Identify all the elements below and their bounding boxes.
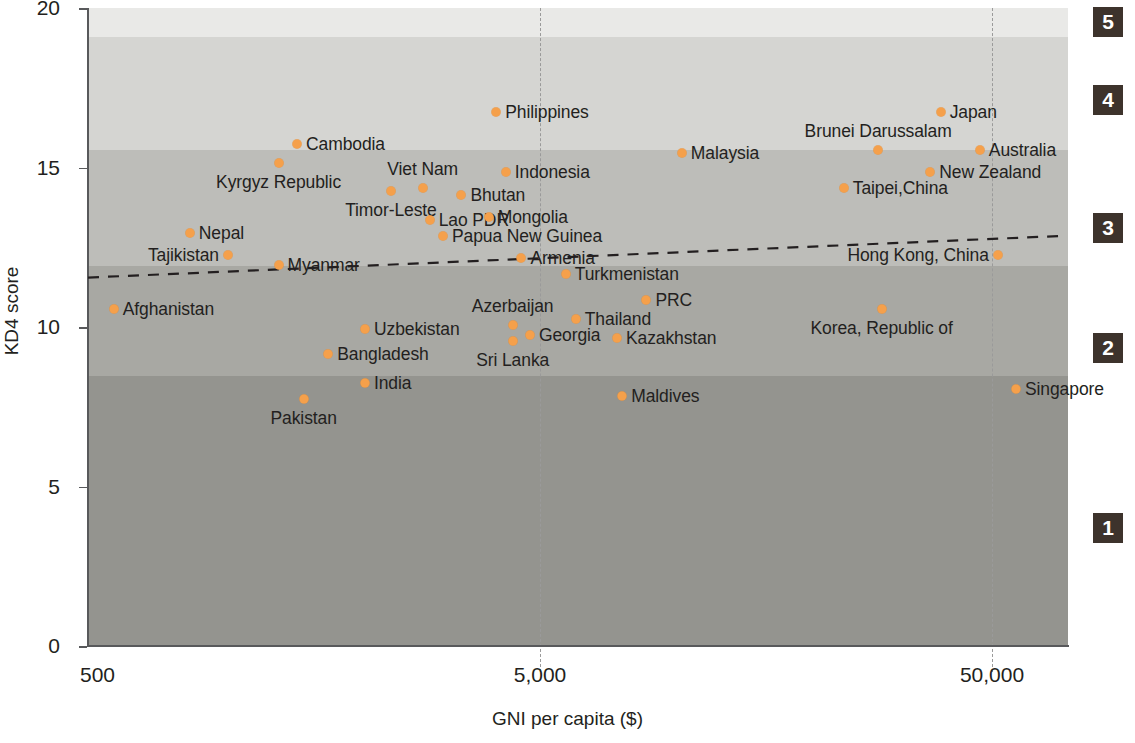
point-label-timor-leste: Timor-Leste xyxy=(345,200,437,221)
point-bhutan[interactable] xyxy=(457,190,466,199)
point-sri-lanka[interactable] xyxy=(508,337,517,346)
point-label-papua-new-guinea: Papua New Guinea xyxy=(452,226,602,247)
y-axis-title: KD4 score xyxy=(1,231,23,391)
point-philippines[interactable] xyxy=(492,107,501,116)
y-tick-5 xyxy=(79,487,87,489)
level-chip-1: 1 xyxy=(1093,513,1123,543)
point-label-azerbaijan: Azerbaijan xyxy=(472,296,554,317)
kd4-band-level-1 xyxy=(88,376,1068,646)
point-papua-new-guinea[interactable] xyxy=(438,232,447,241)
point-taipei-china[interactable] xyxy=(839,184,848,193)
point-timor-leste[interactable] xyxy=(386,187,395,196)
point-korea-republic-of[interactable] xyxy=(877,305,886,314)
point-kazakhstan[interactable] xyxy=(612,334,621,343)
point-label-bhutan: Bhutan xyxy=(470,184,525,205)
point-uzbekistan[interactable] xyxy=(360,324,369,333)
point-label-maldives: Maldives xyxy=(631,385,699,406)
point-label-india: India xyxy=(374,372,411,393)
point-thailand[interactable] xyxy=(571,315,580,324)
x-tick-label-5000: 5,000 xyxy=(514,663,567,687)
point-singapore[interactable] xyxy=(1011,385,1020,394)
point-label-australia: Australia xyxy=(989,139,1056,160)
point-azerbaijan[interactable] xyxy=(508,321,517,330)
point-label-korea-republic-of: Korea, Republic of xyxy=(811,318,953,339)
point-georgia[interactable] xyxy=(525,330,534,339)
point-malaysia[interactable] xyxy=(677,149,686,158)
point-label-viet-nam: Viet Nam xyxy=(387,159,458,180)
level-chip-4: 4 xyxy=(1093,85,1123,115)
point-label-hong-kong-china: Hong Kong, China xyxy=(0,245,989,266)
y-tick-label-5: 5 xyxy=(48,475,60,499)
point-bangladesh[interactable] xyxy=(324,350,333,359)
point-label-afghanistan: Afghanistan xyxy=(123,299,214,320)
point-label-taipei-china: Taipei,China xyxy=(853,178,948,199)
x-axis-line xyxy=(87,645,1069,647)
y-tick-15 xyxy=(79,168,87,170)
point-label-malaysia: Malaysia xyxy=(691,143,759,164)
x-tick-label-50000: 50,000 xyxy=(960,663,1024,687)
kd4-band-level-5 xyxy=(88,8,1068,37)
point-australia[interactable] xyxy=(975,145,984,154)
point-label-japan: Japan xyxy=(950,101,997,122)
point-label-philippines: Philippines xyxy=(505,101,589,122)
point-label-kyrgyz-republic: Kyrgyz Republic xyxy=(216,171,341,192)
level-chip-5: 5 xyxy=(1093,7,1123,37)
point-turkmenistan[interactable] xyxy=(561,270,570,279)
y-tick-10 xyxy=(79,327,87,329)
point-afghanistan[interactable] xyxy=(109,305,118,314)
point-brunei-darussalam[interactable] xyxy=(874,145,883,154)
y-tick-label-0: 0 xyxy=(48,634,60,658)
point-viet-nam[interactable] xyxy=(418,184,427,193)
point-label-turkmenistan: Turkmenistan xyxy=(575,264,679,285)
point-nepal[interactable] xyxy=(185,228,194,237)
y-tick-label-20: 20 xyxy=(37,0,60,20)
point-new-zealand[interactable] xyxy=(926,168,935,177)
chart-container: 05101520 5005,00050,000 AfghanistanTajik… xyxy=(0,0,1135,743)
x-tick-label-500: 500 xyxy=(80,663,115,687)
point-label-new-zealand: New Zealand xyxy=(939,162,1041,183)
y-tick-20 xyxy=(79,8,87,10)
point-hong-kong-china[interactable] xyxy=(993,251,1002,260)
point-maldives[interactable] xyxy=(618,391,627,400)
point-label-mongolia: Mongolia xyxy=(498,206,568,227)
point-kyrgyz-republic[interactable] xyxy=(274,158,283,167)
point-label-kazakhstan: Kazakhstan xyxy=(626,328,716,349)
level-chip-2: 2 xyxy=(1093,333,1123,363)
level-chip-3: 3 xyxy=(1093,213,1123,243)
point-label-prc: PRC xyxy=(655,289,692,310)
point-label-cambodia: Cambodia xyxy=(306,133,385,154)
point-label-singapore: Singapore xyxy=(1025,379,1104,400)
point-lao-pdr[interactable] xyxy=(425,216,434,225)
point-india[interactable] xyxy=(360,378,369,387)
point-label-uzbekistan: Uzbekistan xyxy=(374,318,460,339)
y-tick-label-15: 15 xyxy=(37,156,60,180)
point-label-bangladesh: Bangladesh xyxy=(337,344,428,365)
x-axis-title: GNI per capita ($) xyxy=(0,708,1135,730)
point-pakistan[interactable] xyxy=(299,394,308,403)
point-mongolia[interactable] xyxy=(484,212,493,221)
point-cambodia[interactable] xyxy=(293,139,302,148)
y-axis-line xyxy=(87,8,89,646)
point-prc[interactable] xyxy=(642,295,651,304)
point-label-sri-lanka: Sri Lanka xyxy=(476,350,549,371)
point-indonesia[interactable] xyxy=(501,168,510,177)
point-label-brunei-darussalam: Brunei Darussalam xyxy=(805,120,952,141)
point-japan[interactable] xyxy=(936,107,945,116)
point-label-indonesia: Indonesia xyxy=(515,162,590,183)
point-label-thailand: Thailand xyxy=(585,309,651,330)
y-tick-0 xyxy=(79,646,87,648)
point-label-nepal: Nepal xyxy=(199,222,244,243)
point-label-pakistan: Pakistan xyxy=(270,407,336,428)
y-tick-label-10: 10 xyxy=(37,315,60,339)
